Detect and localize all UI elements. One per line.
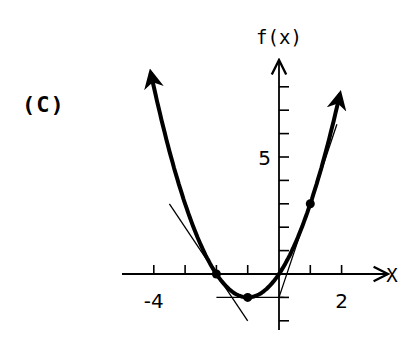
x-tick-label: -4 <box>144 289 164 313</box>
series-group <box>151 73 340 321</box>
function-graph: -425Xf(x) <box>0 0 402 338</box>
function-curve-left <box>151 73 250 298</box>
marked-point <box>212 270 221 279</box>
function-curve-right <box>249 94 340 297</box>
x-tick-label: 2 <box>335 289 348 313</box>
y-axis-label: f(x) <box>256 26 302 48</box>
marked-point <box>306 199 315 208</box>
marked-point <box>243 293 252 302</box>
tangent-line <box>169 204 247 321</box>
tangent-line <box>279 124 337 297</box>
x-axis-label: X <box>386 264 398 286</box>
axis-labels: -425Xf(x) <box>144 26 398 313</box>
y-tick-label: 5 <box>258 146 271 170</box>
